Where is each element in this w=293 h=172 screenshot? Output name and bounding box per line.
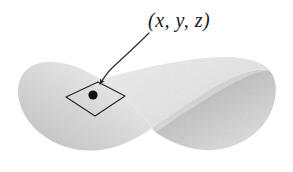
twisted-surface (18, 57, 276, 151)
figure-canvas: (x, y, z) (0, 0, 293, 172)
point-dot (88, 90, 97, 99)
surface-diagram-svg (0, 0, 293, 172)
point-coordinates-label: (x, y, z) (148, 10, 210, 30)
